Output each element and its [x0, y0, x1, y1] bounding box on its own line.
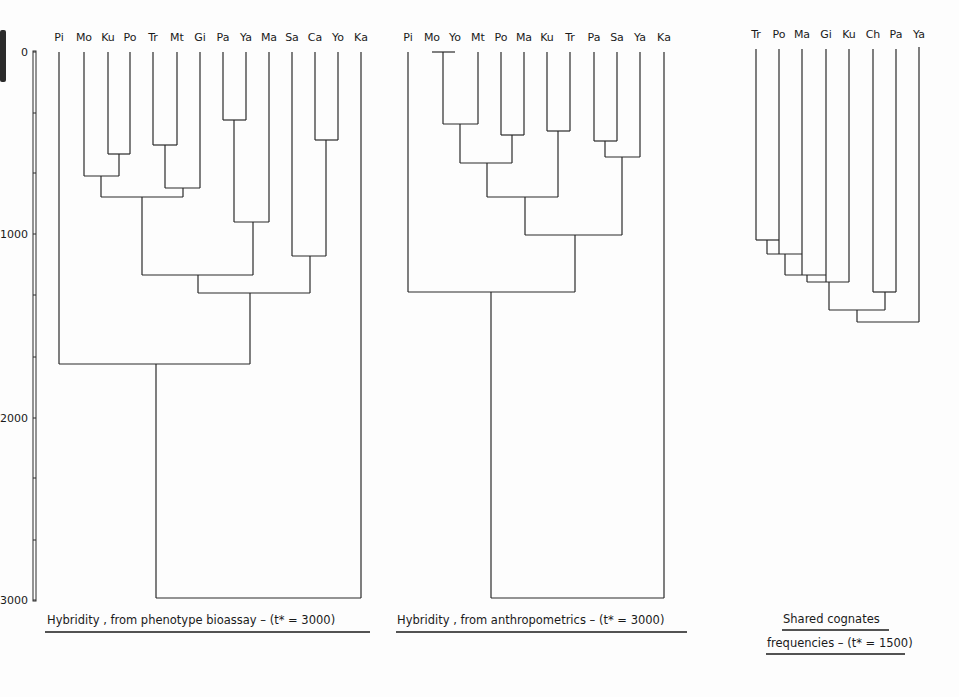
panel-caption-line-2: frequencies – (t* = 1500)	[767, 636, 913, 650]
leaf-label-pi: Pi	[54, 31, 63, 44]
axis-ticks: 0100020003000	[0, 46, 36, 607]
axis-tick-label: 3000	[0, 594, 28, 607]
leaf-label-ka: Ka	[354, 31, 368, 44]
axis-tick-label: 1000	[0, 228, 28, 241]
leaf-label-mt: Mt	[471, 31, 485, 44]
axis-tick-label: 0	[21, 46, 28, 59]
leaf-label-ku: Ku	[540, 31, 554, 44]
tree-edges	[59, 52, 361, 598]
axis-tick-label: 2000	[0, 412, 28, 425]
tree-edges	[408, 52, 664, 598]
leaf-label-ma: Ma	[794, 28, 810, 41]
panel-caption: Hybridity , from phenotype bioassay – (t…	[47, 613, 335, 627]
leaf-label-tr: Tr	[750, 28, 761, 41]
panel-caption: Hybridity , from anthropometrics – (t* =…	[397, 613, 664, 627]
leaf-label-ch: Ch	[866, 28, 881, 41]
dendrogram-anthropometrics: PiMoYoMtPoMaKuTrPaSaYaKa Hybridity , fro…	[396, 31, 687, 632]
leaf-label-mo: Mo	[424, 31, 440, 44]
leaf-labels: TrPoMaGiKuChPaYa	[750, 28, 925, 41]
leaf-label-gi: Gi	[820, 28, 832, 41]
leaf-label-po: Po	[773, 28, 786, 41]
leaf-label-ma: Ma	[261, 31, 277, 44]
leaf-label-sa: Sa	[285, 31, 299, 44]
scan-artifact	[0, 30, 6, 82]
leaf-label-ya: Ya	[633, 31, 646, 44]
leaf-label-tr: Tr	[564, 31, 575, 44]
leaf-label-tr: Tr	[147, 31, 158, 44]
leaf-label-po: Po	[495, 31, 508, 44]
leaf-label-yo: Yo	[448, 31, 461, 44]
leaf-label-pa: Pa	[890, 28, 903, 41]
leaf-label-pi: Pi	[403, 31, 412, 44]
leaf-label-mt: Mt	[170, 31, 184, 44]
dendrogram-figure: 0100020003000 PiMoKuPoTrMtGiPaYaMaSaCaYo…	[0, 0, 959, 697]
leaf-label-ku: Ku	[101, 31, 115, 44]
leaf-label-ya: Ya	[239, 31, 252, 44]
dendrogram-shared-cognates: TrPoMaGiKuChPaYa Shared cognates frequen…	[750, 28, 925, 654]
distance-axis: 0100020003000	[0, 46, 36, 607]
axis-ruler-bar	[33, 51, 36, 601]
leaf-labels: PiMoYoMtPoMaKuTrPaSaYaKa	[403, 31, 671, 44]
leaf-label-mo: Mo	[76, 31, 92, 44]
leaf-label-ya: Ya	[912, 28, 925, 41]
leaf-label-yo: Yo	[331, 31, 344, 44]
leaf-label-pa: Pa	[217, 31, 230, 44]
leaf-label-ma: Ma	[516, 31, 532, 44]
leaf-label-po: Po	[124, 31, 137, 44]
leaf-labels: PiMoKuPoTrMtGiPaYaMaSaCaYoKa	[54, 31, 368, 44]
panel-caption-line-1: Shared cognates	[783, 612, 880, 626]
leaf-label-ca: Ca	[308, 31, 322, 44]
tree-edges	[756, 47, 919, 322]
leaf-label-gi: Gi	[194, 31, 206, 44]
dendrogram-phenotype-bioassay: PiMoKuPoTrMtGiPaYaMaSaCaYoKa Hybridity ,…	[45, 31, 370, 632]
leaf-label-ku: Ku	[842, 28, 856, 41]
leaf-label-pa: Pa	[588, 31, 601, 44]
leaf-label-ka: Ka	[657, 31, 671, 44]
leaf-label-sa: Sa	[610, 31, 624, 44]
